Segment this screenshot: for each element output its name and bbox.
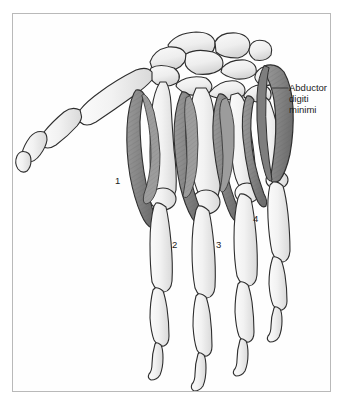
callout-line-1: Abductor [289,82,327,93]
callout-line-3: minimi [289,104,327,115]
abductor-digiti-minimi-label: Abductor digiti minimi [289,82,327,115]
anatomy-figure: Abductor digiti minimi 1 2 3 4 [0,0,343,403]
hand-illustration [0,0,343,403]
number-label-4: 4 [253,213,258,224]
number-label-1: 1 [115,175,120,186]
callout-line-2: digiti [289,93,327,104]
number-label-2: 2 [172,239,177,250]
number-label-3: 3 [216,239,221,250]
